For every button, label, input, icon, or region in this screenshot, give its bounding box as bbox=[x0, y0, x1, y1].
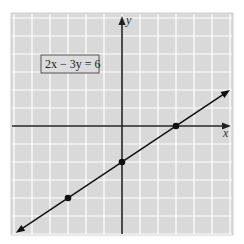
y-axis-label: y bbox=[125, 13, 132, 27]
graph: x y 2x − 3y = 6 bbox=[0, 0, 244, 244]
x-axis-label: x bbox=[222, 126, 229, 140]
data-point bbox=[173, 123, 180, 130]
equation-label: 2x − 3y = 6 bbox=[45, 57, 101, 71]
data-point bbox=[65, 195, 72, 202]
data-point bbox=[119, 159, 126, 166]
